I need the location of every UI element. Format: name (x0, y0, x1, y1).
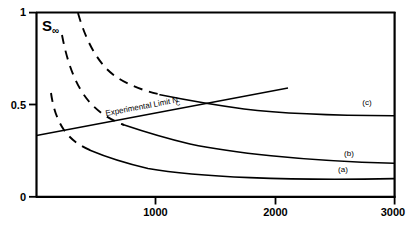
y-axis-title-subscript: ∞ (52, 25, 59, 36)
y-axis-title-symbol: S (42, 17, 52, 34)
y-tick-label-0point5: 0.5 (11, 99, 26, 111)
x-tick-label-3000: 3000 (381, 206, 405, 218)
x-axis-ticks (156, 197, 395, 205)
curve-a-dashed-segment (51, 93, 92, 151)
curve-c-dashed-segment (78, 13, 162, 95)
y-tick-label-0: 0 (20, 191, 26, 203)
y-axis-ticks (29, 13, 37, 197)
experimental-limit-subscript: C (175, 100, 181, 107)
x-tick-label-1000: 1000 (143, 206, 167, 218)
experimental-limit-text: Experimental Limit N (105, 95, 179, 118)
curve-label-a: (a) (338, 165, 348, 174)
y-axis-title: S ∞ (42, 17, 59, 36)
experimental-limit-annotation: Experimental Limit N C (105, 95, 182, 120)
curve-label-b: (b) (344, 149, 354, 158)
x-tick-label-2000: 2000 (263, 206, 287, 218)
y-tick-label-1: 1 (20, 6, 26, 18)
chart-figure: 1 0.5 0 1000 2000 3000 S ∞ (c) (b) (a) (0, 0, 410, 227)
chart-plot-area: 1 0.5 0 1000 2000 3000 S ∞ (c) (b) (a) (0, 0, 410, 227)
curve-label-c: (c) (362, 98, 372, 107)
